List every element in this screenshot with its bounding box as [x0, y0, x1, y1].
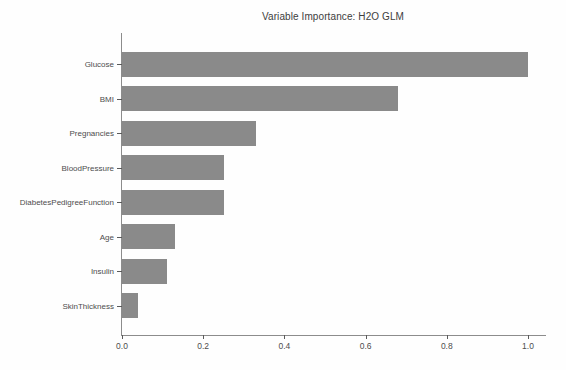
x-axis-tick — [366, 335, 367, 339]
y-axis-label-bmi: BMI — [100, 94, 114, 103]
bar-bloodpressure — [122, 155, 224, 180]
x-axis-tick — [447, 335, 448, 339]
bar-pregnancies — [122, 121, 256, 146]
x-axis-tick — [528, 335, 529, 339]
bar-insulin — [122, 259, 167, 284]
x-axis-tick — [284, 335, 285, 339]
y-axis-tick — [117, 306, 122, 307]
y-axis-label-skinthickness: SkinThickness — [62, 301, 114, 310]
y-axis-label-bloodpressure: BloodPressure — [62, 163, 114, 172]
x-axis-label-1.0: 1.0 — [522, 341, 534, 351]
x-axis-tick — [122, 335, 123, 339]
y-axis-tick — [117, 271, 122, 272]
x-axis-label-0.0: 0.0 — [116, 341, 128, 351]
y-axis-tick — [117, 99, 122, 100]
bar-skinthickness — [122, 293, 138, 318]
bar-age — [122, 224, 175, 249]
y-axis-label-diabetespedigreefunction: DiabetesPedigreeFunction — [20, 198, 114, 207]
y-axis-label-age: Age — [100, 232, 114, 241]
chart-title: Variable Importance: H2O GLM — [121, 11, 545, 22]
y-axis-label-insulin: Insulin — [91, 267, 114, 276]
bar-diabetespedigreefunction — [122, 190, 224, 215]
bar-glucose — [122, 52, 528, 77]
y-axis-tick — [117, 64, 122, 65]
variable-importance-figure: Variable Importance: H2O GLM GlucoseBMIP… — [0, 0, 566, 370]
y-axis-tick — [117, 202, 122, 203]
plot-area: GlucoseBMIPregnanciesBloodPressureDiabet… — [121, 33, 546, 336]
x-axis-label-0.6: 0.6 — [360, 341, 372, 351]
x-axis-label-0.8: 0.8 — [441, 341, 453, 351]
y-axis-tick — [117, 168, 122, 169]
x-axis-tick — [203, 335, 204, 339]
y-axis-label-glucose: Glucose — [85, 60, 114, 69]
bar-bmi — [122, 86, 398, 111]
x-axis-label-0.4: 0.4 — [278, 341, 290, 351]
y-axis-tick — [117, 133, 122, 134]
x-axis-label-0.2: 0.2 — [197, 341, 209, 351]
y-axis-label-pregnancies: Pregnancies — [70, 129, 114, 138]
y-axis-tick — [117, 237, 122, 238]
